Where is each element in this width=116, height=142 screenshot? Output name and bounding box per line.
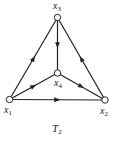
graph-title: T2 xyxy=(52,122,62,136)
node-label-x1: x1 xyxy=(3,104,12,117)
arrowhead-icon xyxy=(77,83,83,88)
arrowhead-icon xyxy=(30,85,36,90)
arrowhead-icon xyxy=(80,56,85,62)
node-x1 xyxy=(6,96,12,102)
arrowhead-icon xyxy=(54,97,60,102)
node-label-x3: x3 xyxy=(52,0,61,13)
arrowhead-icon xyxy=(55,42,60,48)
node-x2 xyxy=(102,97,108,103)
node-x3 xyxy=(54,14,60,20)
node-label-x4: x4 xyxy=(53,77,62,90)
directed-graph: x3 x1 x2 x4 T2 xyxy=(0,0,116,142)
node-label-x2: x2 xyxy=(99,105,108,118)
arrowhead-icon xyxy=(30,56,35,62)
node-x4 xyxy=(54,70,60,76)
